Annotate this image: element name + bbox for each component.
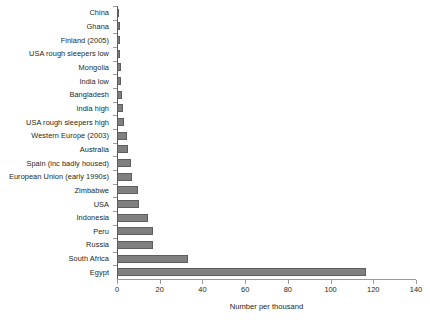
x-axis-tick <box>288 280 289 284</box>
bar-row <box>117 20 415 34</box>
x-axis-tick <box>331 280 332 284</box>
bar <box>117 63 121 71</box>
category-label: USA <box>0 197 113 211</box>
category-label: Spain (inc badly housed) <box>0 156 113 170</box>
bar <box>117 36 120 44</box>
bar-row <box>117 102 415 116</box>
x-axis-tick-label: 140 <box>410 285 422 294</box>
x-axis-tick-labels: 020406080100120140 <box>117 285 416 297</box>
bar-row <box>117 74 415 88</box>
x-axis-tick-label: 0 <box>115 285 119 294</box>
bar-row <box>117 211 415 225</box>
x-axis-tick-label: 40 <box>198 285 206 294</box>
bar-row <box>117 197 415 211</box>
category-label: Peru <box>0 225 113 239</box>
category-label: Australia <box>0 143 113 157</box>
x-axis-tick-label: 100 <box>324 285 336 294</box>
bar <box>117 214 148 222</box>
category-label: European Union (early 1990s) <box>0 170 113 184</box>
x-axis-tick <box>373 280 374 284</box>
x-axis-tick-label: 120 <box>367 285 379 294</box>
bar-row <box>117 61 415 75</box>
category-label: Western Europe (2003) <box>0 129 113 143</box>
x-axis-tick <box>202 280 203 284</box>
category-label: Zimbabwe <box>0 184 113 198</box>
bar <box>117 9 119 17</box>
plot-area <box>117 6 415 279</box>
bar-rows <box>117 6 415 279</box>
bar <box>117 241 153 249</box>
x-axis-tick <box>245 280 246 284</box>
x-axis-tick-label: 60 <box>241 285 249 294</box>
bar-row <box>117 115 415 129</box>
bar <box>117 91 122 99</box>
x-axis-tick <box>416 280 417 284</box>
bar-row <box>117 156 415 170</box>
bar <box>117 200 139 208</box>
category-label: Finland (2005) <box>0 33 113 47</box>
bar-row <box>117 238 415 252</box>
x-axis-tick-label: 20 <box>156 285 164 294</box>
bar <box>117 22 120 30</box>
bar-row <box>117 265 415 279</box>
category-label: USA rough sleepers high <box>0 115 113 129</box>
bar <box>117 268 366 276</box>
bar-row <box>117 252 415 266</box>
x-axis-tick <box>117 280 118 284</box>
bar-row <box>117 129 415 143</box>
category-label: India high <box>0 102 113 116</box>
bar-row <box>117 6 415 20</box>
category-label: Egypt <box>0 265 113 279</box>
category-label: China <box>0 6 113 20</box>
horizontal-bar-chart: ChinaGhanaFinland (2005)USA rough sleepe… <box>0 0 430 322</box>
bar <box>117 159 131 167</box>
x-axis-title: Number per thousand <box>117 302 416 311</box>
bar-row <box>117 47 415 61</box>
category-label: Indonesia <box>0 211 113 225</box>
category-label: South Africa <box>0 252 113 266</box>
bar <box>117 227 153 235</box>
bar <box>117 186 138 194</box>
category-label: USA rough sleepers low <box>0 47 113 61</box>
bar <box>117 145 128 153</box>
bar <box>117 255 188 263</box>
category-axis-labels: ChinaGhanaFinland (2005)USA rough sleepe… <box>0 6 113 279</box>
category-label: Mongolia <box>0 61 113 75</box>
bar-row <box>117 33 415 47</box>
x-axis-tick-label: 80 <box>284 285 292 294</box>
bar <box>117 77 121 85</box>
bar-row <box>117 225 415 239</box>
category-label: Ghana <box>0 20 113 34</box>
category-label: Russia <box>0 238 113 252</box>
bar <box>117 173 132 181</box>
bar <box>117 104 123 112</box>
bar-row <box>117 143 415 157</box>
bar-row <box>117 170 415 184</box>
bar <box>117 132 127 140</box>
bar-row <box>117 88 415 102</box>
bar-row <box>117 184 415 198</box>
bar <box>117 50 120 58</box>
x-axis-tick <box>160 280 161 284</box>
category-label: India low <box>0 74 113 88</box>
bar <box>117 118 124 126</box>
category-label: Bangladesh <box>0 88 113 102</box>
